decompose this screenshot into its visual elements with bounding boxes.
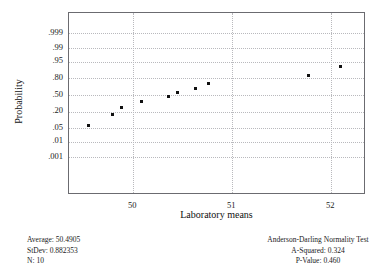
gridline-horizontal [69, 142, 364, 143]
y-axis-title: Probability [13, 62, 24, 142]
y-axis-tick-label: .001 [48, 152, 63, 161]
gridline-vertical [232, 13, 233, 193]
data-point [194, 87, 197, 90]
data-point [339, 65, 342, 68]
y-axis-tick-label: .50 [52, 90, 63, 99]
data-point [87, 124, 90, 127]
data-point [167, 95, 170, 98]
y-axis-tick-labels: .999.99.95.80.50.20.05.01.001 [30, 12, 63, 194]
gridline-horizontal [69, 48, 364, 49]
stat-stdev: StDev: 0.882353 [27, 246, 80, 257]
plot-inner [69, 13, 364, 193]
plot-area [68, 12, 365, 194]
stat-n: N: 10 [27, 256, 80, 267]
data-point [140, 100, 143, 103]
y-axis-tick-label: .01 [52, 136, 63, 145]
normality-test-block: Anderson-Darling Normality Test A-Square… [255, 235, 381, 267]
y-axis-tick-label: .95 [52, 56, 63, 65]
y-axis-tick-label: .999 [48, 28, 63, 37]
probability-plot-page: Probability .999.99.95.80.50.20.05.01.00… [0, 0, 387, 279]
stat-a-squared: A-Squared: 0.324 [255, 246, 381, 257]
gridline-horizontal [69, 78, 364, 79]
gridline-horizontal [69, 95, 364, 96]
data-point [207, 82, 210, 85]
x-axis-title: Laboratory means [68, 209, 365, 220]
gridline-horizontal [69, 128, 364, 129]
data-point [111, 113, 114, 116]
summary-statistics-block: Average: 50.4905 StDev: 0.882353 N: 10 [27, 235, 80, 267]
gridline-vertical [133, 13, 134, 193]
normality-test-title: Anderson-Darling Normality Test [255, 235, 381, 246]
y-axis-tick-label: .80 [52, 73, 63, 82]
x-axis-tick-labels: 505152 [68, 195, 365, 209]
stat-average: Average: 50.4905 [27, 235, 80, 246]
gridline-horizontal [69, 33, 364, 34]
y-axis-tick-label: .05 [52, 123, 63, 132]
gridline-horizontal [69, 62, 364, 63]
data-point [176, 91, 179, 94]
stat-p-value: P-Value: 0.460 [255, 256, 381, 267]
y-axis-tick-label: .20 [52, 106, 63, 115]
y-axis-tick-label: .99 [52, 43, 63, 52]
gridline-vertical [331, 13, 332, 193]
data-point [120, 106, 123, 109]
data-point [307, 74, 310, 77]
gridline-horizontal [69, 157, 364, 158]
